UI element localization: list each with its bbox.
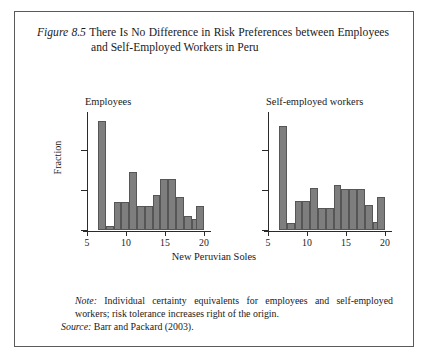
x-axis-tick-label: 10 [121,238,131,248]
histogram-bar [145,206,153,230]
histogram-bar [357,189,365,230]
figure-title: There Is No Difference in Risk Preferenc… [89,26,389,54]
plot-area-self-employed [268,114,385,230]
histogram-bar [153,195,161,230]
histogram-bar [184,216,192,230]
histogram-bar [377,197,385,230]
x-axis-tick-label: 15 [160,238,170,248]
x-axis-tick [268,231,269,236]
source-paragraph: Source: Barr and Packard (2003). [75,321,393,334]
y-axis-title: Fraction [52,123,63,193]
source-text: Barr and Packard (2003). [91,321,193,332]
x-axis-tick-label: 20 [199,238,209,248]
panel-title-self-employed: Self-employed workers [266,96,363,107]
figure-frame: Figure 8.5 There Is No Difference in Ris… [14,11,414,347]
histogram-bar [341,189,349,230]
x-axis-tick [126,231,127,236]
histogram-bar [137,206,145,230]
histogram-bar [334,185,342,230]
figure-number: Figure 8.5 [37,26,86,39]
histogram-bar [287,223,295,230]
source-lead: Source: [61,321,91,332]
histogram-bar [196,206,204,230]
y-axis-tick [81,190,87,191]
x-axis-tick [346,231,347,236]
histogram-bar [129,172,137,230]
plot-area-employees [87,114,204,230]
x-axis-tick-label: 20 [380,238,390,248]
x-axis-tick-label: 5 [85,238,90,248]
histogram-bar [365,205,373,230]
histogram-bar [168,179,176,230]
histogram-bar [302,201,310,230]
histogram-bar [310,188,318,230]
charts-container: Employees Fraction 00.10.2 5101520 Self-… [15,94,413,279]
x-axis-tick-label: 5 [266,238,271,248]
x-axis-tick [307,231,308,236]
x-axis-line-self-employed [264,231,392,232]
note-paragraph: Note: Individual certainty equivalents f… [75,295,393,320]
note-text: Individual certainty equivalents for emp… [75,295,393,319]
histogram-bar [279,126,287,230]
x-axis-tick [165,231,166,236]
figure-caption: Figure 8.5 There Is No Difference in Ris… [37,25,389,55]
x-axis-tick [87,231,88,236]
histogram-bar [160,179,168,230]
histogram-bar [326,208,334,230]
x-axis-title: New Peruvian Soles [15,251,413,262]
histogram-bar [349,189,357,230]
note-lead: Note: [75,295,97,306]
histogram-bar [98,121,106,230]
y-axis-tick [81,150,87,151]
y-axis-tick [262,190,268,191]
x-axis-tick [385,231,386,236]
x-axis-tick-label: 15 [341,238,351,248]
x-axis-tick [204,231,205,236]
x-axis-tick-label: 10 [302,238,312,248]
panel-title-employees: Employees [85,96,131,107]
histogram-bar [295,201,303,230]
histogram-bar [176,197,184,230]
x-axis-line-employees [83,231,211,232]
histogram-bar [318,208,326,230]
histogram-bar [121,202,129,230]
histogram-bar [114,202,122,230]
histogram-bar [106,226,114,230]
figure-notes: Note: Individual certainty equivalents f… [75,295,393,333]
y-axis-tick [262,150,268,151]
